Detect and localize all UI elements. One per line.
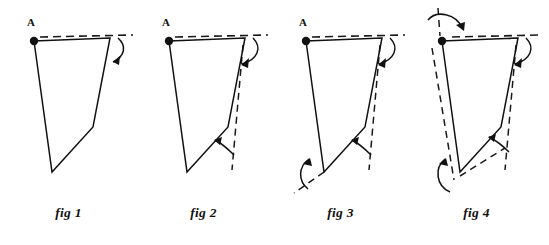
linkage-outline (34, 38, 110, 172)
figure-caption-fig4: fig 4 (408, 205, 545, 221)
pivot-point-a (302, 37, 310, 45)
rotation-arrow-lower-hinge (351, 137, 371, 155)
figure-caption-fig2: fig 2 (135, 205, 272, 221)
arrow-head (113, 56, 120, 65)
dashed-line-right-original (505, 45, 516, 170)
dashed-line-right-original (369, 45, 380, 170)
pivot-point-a (438, 37, 446, 45)
rotation-arrow-bottom-left (438, 158, 450, 192)
linkage-outline (442, 38, 518, 172)
figure-drawing-fig3: A (272, 0, 409, 200)
pivot-point-a (30, 37, 38, 45)
rotation-arrow-lower-hinge (214, 137, 234, 155)
dashed-line-top-reference (312, 35, 405, 37)
figure-panel-fig4: fig 4 (408, 0, 545, 245)
dashed-line-bottom-extension (294, 172, 324, 193)
vertex-label-a: A (162, 16, 170, 28)
figure-drawing-fig1: A (0, 0, 137, 200)
vertex-label-a: A (299, 16, 307, 28)
arrow-head (303, 158, 312, 166)
linkage-outline (169, 38, 245, 172)
dashed-reference-lines-fig3 (294, 35, 405, 193)
figure-drawing-fig4 (408, 0, 545, 200)
figure-sheet: A fig 1 A fig 2 (0, 0, 549, 245)
rotation-arrow-bottom-left (301, 158, 312, 189)
dashed-line-top-reference (40, 35, 133, 37)
rotation-arrow-lower-hinge (488, 134, 509, 152)
rotation-arrow-top-left (428, 14, 465, 31)
dashed-line-bottom-original (460, 148, 505, 176)
rotation-arrow-top-right (113, 38, 124, 65)
dashed-line-right-original (232, 45, 243, 170)
figure-panel-fig2: A fig 2 (135, 0, 272, 245)
linkage-outline (306, 38, 382, 172)
figure-panel-fig3: A fig 3 (272, 0, 409, 245)
pivot-point-a (165, 37, 173, 45)
dashed-line-top-reference (452, 35, 541, 37)
figure-panel-fig1: A fig 1 (0, 0, 137, 245)
figure-caption-fig3: fig 3 (272, 205, 409, 221)
dashed-reference-lines-fig1 (40, 35, 133, 37)
dashed-reference-lines-fig2 (175, 35, 268, 170)
dashed-line-top-left-vertical (438, 8, 440, 36)
arrow-arc (428, 14, 463, 29)
figure-caption-fig1: fig 1 (0, 205, 137, 221)
figure-drawing-fig2: A (135, 0, 272, 200)
dashed-reference-lines-fig4 (432, 8, 541, 180)
dashed-line-top-reference (175, 35, 268, 37)
vertex-label-a: A (27, 16, 35, 28)
